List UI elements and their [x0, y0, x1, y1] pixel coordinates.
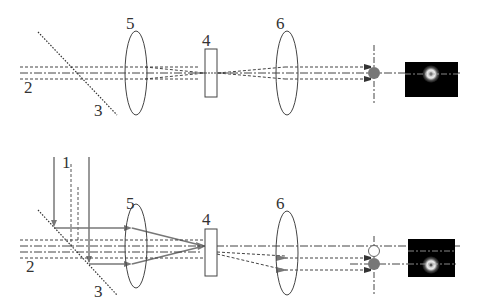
- sample-4: [205, 229, 217, 276]
- shifted-focus: [368, 258, 380, 270]
- label-lens2: 6: [276, 194, 285, 213]
- converge-lower: [145, 73, 205, 79]
- label-lens1: 5: [126, 14, 135, 33]
- label-beam: 2: [26, 257, 35, 276]
- bottom-panel: 1 2 3 5 4 6: [20, 153, 460, 301]
- diverge-lower: [218, 73, 285, 79]
- lens-6: [276, 211, 298, 295]
- label-lens2: 6: [276, 14, 285, 33]
- label-pump: 1: [62, 153, 71, 172]
- focus-spot: [368, 67, 380, 79]
- converge-upper: [145, 67, 205, 73]
- pump-focus-lower: [132, 246, 204, 264]
- label-splitter: 3: [94, 101, 103, 120]
- label-sample: 4: [202, 210, 211, 229]
- top-panel: 2 3 5 4 6: [20, 14, 460, 120]
- original-focus: [369, 246, 380, 257]
- pump-focus-upper: [132, 228, 204, 246]
- label-beam: 2: [24, 78, 33, 97]
- label-sample: 4: [202, 31, 211, 50]
- ring-pattern: [422, 256, 440, 274]
- label-splitter: 3: [94, 282, 103, 301]
- diverge-upper: [218, 67, 285, 73]
- optical-diagram: 2 3 5 4 6: [0, 0, 478, 308]
- label-lens1: 5: [126, 194, 135, 213]
